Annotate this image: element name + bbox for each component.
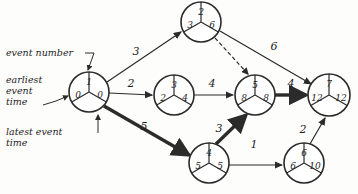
edge-2-5-dummy[interactable] <box>215 38 248 74</box>
edge-label-6-7: 2 <box>299 123 307 136</box>
node-event-6[interactable]: 6 6 10 <box>284 143 324 183</box>
edge-label-5-7: 4 <box>287 77 295 90</box>
node-5-earliest-time: 8 <box>241 93 247 103</box>
node-3-event-number: 3 <box>171 80 177 90</box>
node-4-event-number: 4 <box>205 148 212 158</box>
node-7-event-number: 7 <box>326 79 332 89</box>
annotation-latest-l1: latest event <box>6 126 63 137</box>
edge-label-4-6: 1 <box>251 138 258 151</box>
node-2-event-number: 2 <box>197 7 204 17</box>
node-4-earliest-time: 5 <box>195 161 201 171</box>
edge-label-1-2: 3 <box>133 45 140 58</box>
leader-event-number <box>85 53 94 70</box>
annotation-event-number: event number <box>6 47 75 58</box>
node-2-latest-time: 6 <box>209 20 215 30</box>
node-event-2[interactable]: 2 3 6 <box>181 2 221 42</box>
node-1-latest-time: 0 <box>97 90 103 100</box>
node-event-4[interactable]: 4 5 5 <box>189 143 229 183</box>
leader-earliest-time <box>43 96 68 105</box>
edge-label-1-4: 5 <box>141 120 148 133</box>
annotation-earliest-l3: time <box>6 96 28 107</box>
node-1-event-number: 1 <box>86 77 92 87</box>
edge-label-4-5: 3 <box>216 122 223 135</box>
node-5-event-number: 5 <box>252 80 258 90</box>
node-6-event-number: 6 <box>301 148 307 158</box>
node-6-earliest-time: 6 <box>290 161 296 171</box>
node-3-latest-time: 4 <box>181 93 188 103</box>
edge-6-7[interactable] <box>310 118 325 144</box>
network-diagram-canvas: 3 2 5 6 4 3 1 4 2 1 0 0 2 3 6 <box>0 0 358 194</box>
annotation-latest-l2: time <box>6 137 28 148</box>
node-event-5[interactable]: 5 8 8 <box>235 75 275 115</box>
node-5-latest-time: 8 <box>263 93 269 103</box>
annotation-earliest-l1: earliest <box>6 74 42 85</box>
annotation-earliest-l2: event <box>6 85 33 96</box>
node-event-1[interactable]: 1 0 0 <box>69 72 109 112</box>
edge-1-3[interactable] <box>109 93 152 95</box>
node-6-latest-time: 10 <box>309 161 321 171</box>
node-3-earliest-time: 2 <box>159 93 166 103</box>
edge-label-1-3: 2 <box>127 77 135 90</box>
node-7-latest-time: 12 <box>335 93 347 103</box>
node-2-earliest-time: 3 <box>187 20 193 30</box>
node-4-latest-time: 5 <box>217 161 223 171</box>
network-diagram-svg: 3 2 5 6 4 3 1 4 2 1 0 0 2 3 6 <box>0 0 358 194</box>
node-7-earliest-time: 12 <box>311 93 323 103</box>
node-event-3[interactable]: 3 2 4 <box>154 75 194 115</box>
edge-1-2[interactable] <box>107 32 181 82</box>
node-event-7[interactable]: 7 12 12 <box>308 74 350 116</box>
node-1-earliest-time: 0 <box>75 90 81 100</box>
edge-label-2-7: 6 <box>271 40 278 53</box>
edge-label-3-5: 4 <box>208 77 216 90</box>
